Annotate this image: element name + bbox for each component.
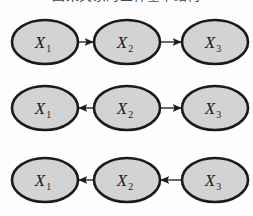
node-chain-forward-x3[interactable]: X3 — [182, 20, 248, 64]
causal-graph-figure: 因果关系的三种基本结构 X1X2X3X1X2X3X1X2X3 — [0, 0, 253, 216]
nodes-layer: X1X2X3X1X2X3X1X2X3 — [12, 20, 248, 202]
node-common-cause-fork-x1[interactable]: X1 — [12, 86, 78, 130]
node-chain-reverse-x1[interactable]: X1 — [12, 158, 78, 202]
node-chain-forward-x2[interactable]: X2 — [94, 20, 160, 64]
node-chain-reverse-x3[interactable]: X3 — [182, 158, 248, 202]
node-common-cause-fork-x2[interactable]: X2 — [94, 86, 160, 130]
node-common-cause-fork-x3[interactable]: X3 — [182, 86, 248, 130]
graph-canvas: X1X2X3X1X2X3X1X2X3 — [0, 0, 253, 216]
node-chain-forward-x1[interactable]: X1 — [12, 20, 78, 64]
node-chain-reverse-x2[interactable]: X2 — [94, 158, 160, 202]
